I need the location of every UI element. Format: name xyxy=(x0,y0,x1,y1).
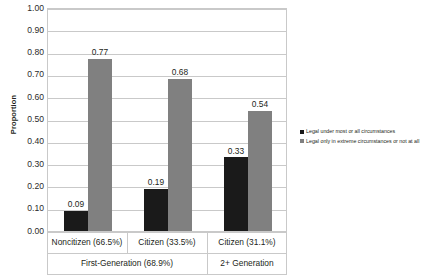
y-axis-tick-label: 0.40 xyxy=(10,137,44,146)
category-axis: Noncitizen (66.5%)Citizen (33.5%)Citizen… xyxy=(47,232,287,276)
bar-value-label: 0.77 xyxy=(80,48,120,56)
y-axis-tick-label: 0.00 xyxy=(10,227,44,236)
group-label: 2+ Generation xyxy=(207,253,287,274)
y-axis-tick-labels: 1.000.900.800.700.600.500.400.300.200.10… xyxy=(6,0,44,279)
bar xyxy=(248,111,272,231)
bar xyxy=(224,157,248,231)
axis-separator xyxy=(286,232,287,274)
axis-separator xyxy=(47,232,287,233)
bar-value-label: 0.68 xyxy=(160,68,200,76)
legend-swatch xyxy=(300,139,304,143)
y-axis-tick-label: 0.50 xyxy=(10,115,44,124)
category-label: Citizen (33.5%) xyxy=(127,232,207,253)
plot-area: 0.090.770.190.680.330.54 xyxy=(47,8,287,232)
y-axis-tick-label: 0.70 xyxy=(10,70,44,79)
chart-legend: Legal under most or all circumstancesLeg… xyxy=(300,128,426,148)
y-axis-tick-label: 0.90 xyxy=(10,26,44,35)
bar xyxy=(64,211,88,231)
legend-label: Legal under most or all circumstances xyxy=(306,128,395,134)
axis-separator xyxy=(47,274,287,275)
category-label: Noncitizen (66.5%) xyxy=(47,232,127,253)
y-axis-tick-label: 1.00 xyxy=(10,4,44,13)
y-axis-tick-label: 0.80 xyxy=(10,48,44,57)
category-label: Citizen (31.1%) xyxy=(207,232,287,253)
y-axis-tick-label: 0.60 xyxy=(10,93,44,102)
bars-layer: 0.090.770.190.680.330.54 xyxy=(48,9,286,231)
group-label: First-Generation (68.9%) xyxy=(47,253,207,274)
legend-entry: Legal only in extreme circumstances or n… xyxy=(300,138,426,144)
axis-separator xyxy=(207,232,208,274)
bar-chart: Proportion 1.000.900.800.700.600.500.400… xyxy=(0,0,430,279)
axis-separator xyxy=(47,253,287,254)
legend-swatch xyxy=(300,130,304,134)
bar xyxy=(168,79,192,231)
legend-entry: Legal under most or all circumstances xyxy=(300,128,426,134)
axis-separator xyxy=(127,232,128,253)
y-axis-tick-label: 0.10 xyxy=(10,204,44,213)
bar xyxy=(88,59,112,231)
y-axis-tick-label: 0.20 xyxy=(10,182,44,191)
legend-label: Legal only in extreme circumstances or n… xyxy=(306,138,419,144)
bar xyxy=(144,189,168,231)
axis-separator xyxy=(47,232,48,274)
y-axis-tick-label: 0.30 xyxy=(10,160,44,169)
bar-value-label: 0.54 xyxy=(240,100,280,108)
